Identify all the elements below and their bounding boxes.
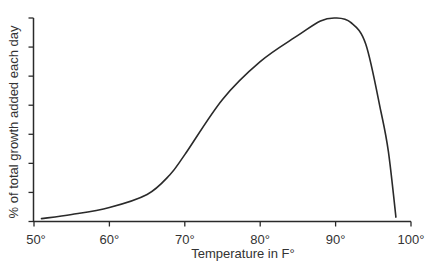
growth-curve [42, 18, 396, 219]
x-axis-ticks: 50°60°70°80°90°100° [26, 222, 424, 247]
x-tick-label: 90° [326, 232, 346, 247]
x-tick-label: 100° [398, 232, 425, 247]
y-axis-label: % of total growth added each day [6, 25, 21, 218]
x-tick-label: 70° [175, 232, 195, 247]
x-tick-label: 80° [250, 232, 270, 247]
x-tick-label: 60° [100, 232, 120, 247]
growth-temperature-chart: 50°60°70°80°90°100° Temperature in F° % … [0, 0, 437, 270]
x-axis-label: Temperature in F° [191, 246, 294, 261]
plot-area: 50°60°70°80°90°100° [26, 18, 424, 247]
x-tick-label: 50° [26, 232, 46, 247]
